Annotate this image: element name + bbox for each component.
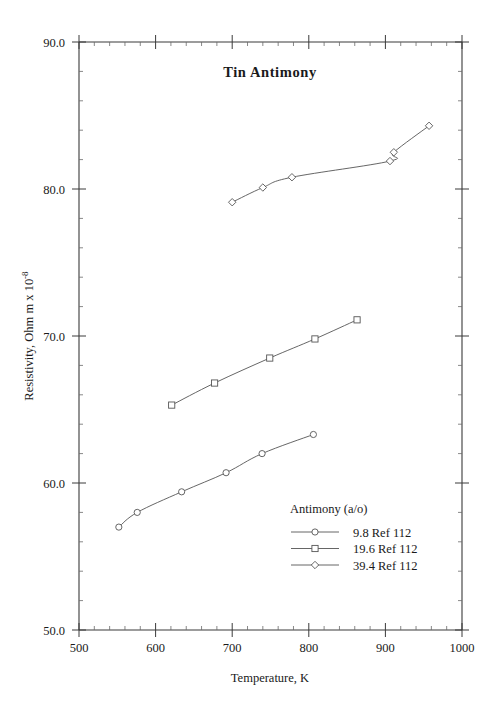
y-axis-title-main: Resistivity, Ohm m x 10 — [22, 279, 36, 401]
data-point-circle — [310, 431, 316, 437]
x-tick-label: 900 — [376, 641, 395, 655]
y-tick-label: 80.0 — [43, 183, 65, 197]
x-tick-label: 500 — [70, 641, 89, 655]
data-point-square — [211, 380, 217, 386]
y-tick-label: 70.0 — [43, 330, 65, 344]
y-axis-title-exponent: -8 — [20, 271, 30, 279]
x-tick-label: 800 — [299, 641, 318, 655]
y-tick-label: 90.0 — [43, 36, 65, 50]
chart-background — [0, 0, 491, 705]
legend-item-label: 9.8 Ref 112 — [353, 526, 411, 540]
data-point-square — [312, 336, 318, 342]
data-point-circle — [179, 489, 185, 495]
y-axis-title: Resistivity, Ohm m x 10-8 — [20, 271, 36, 401]
legend-title: Antimony (a/o) — [290, 502, 367, 516]
y-tick-label: 50.0 — [43, 624, 65, 638]
x-tick-label: 700 — [223, 641, 242, 655]
x-tick-label: 600 — [146, 641, 165, 655]
data-point-square — [354, 317, 360, 323]
resistivity-line-chart: 500600700800900100050.060.070.080.090.0 … — [0, 0, 491, 705]
data-point-circle — [116, 524, 122, 530]
legend-item-label: 19.6 Ref 112 — [353, 542, 417, 556]
legend-marker-square — [312, 545, 318, 551]
data-point-circle — [259, 451, 265, 457]
data-point-circle — [134, 509, 140, 515]
chart-title: Tin Antimony — [223, 64, 317, 80]
data-point-square — [169, 402, 175, 408]
y-axis-title-text: Resistivity, Ohm m x 10-8 — [20, 271, 36, 401]
legend-item-label: 39.4 Ref 112 — [353, 559, 417, 573]
x-axis-title: Temperature, K — [231, 671, 309, 685]
data-point-circle — [223, 470, 229, 476]
chart-figure: 500600700800900100050.060.070.080.090.0 … — [0, 0, 491, 705]
x-tick-label: 1000 — [450, 641, 475, 655]
data-point-square — [267, 355, 273, 361]
y-tick-label: 60.0 — [43, 477, 65, 491]
legend-marker-circle — [312, 529, 318, 535]
